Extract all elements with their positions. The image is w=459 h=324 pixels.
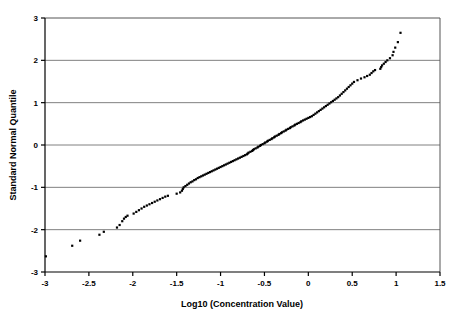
data-point — [366, 75, 368, 77]
data-point — [167, 195, 169, 197]
x-tick-label: -2.5 — [82, 279, 96, 288]
data-point — [138, 209, 140, 211]
data-point — [356, 79, 358, 81]
y-tick-label: 2 — [34, 56, 39, 65]
x-tick-label: -1.5 — [170, 279, 184, 288]
data-point — [146, 204, 148, 206]
y-tick-label: -3 — [31, 268, 39, 277]
data-point — [363, 76, 365, 78]
data-point — [394, 47, 396, 49]
data-point — [119, 224, 121, 226]
data-point — [135, 211, 137, 213]
data-point — [162, 197, 164, 199]
data-point — [176, 193, 178, 195]
y-tick-label: -2 — [31, 226, 39, 235]
data-point — [386, 59, 388, 61]
qq-plot-figure: -3-2.5-2-1.5-1-0.500.511.5 -3-2-10123 Lo… — [0, 0, 459, 324]
y-tick-label: 3 — [34, 14, 39, 23]
data-point — [116, 226, 118, 228]
x-tick-label: 1.5 — [434, 279, 446, 288]
y-tick-label: 0 — [34, 141, 39, 150]
data-point — [156, 199, 158, 201]
x-tick-label: 1 — [394, 279, 399, 288]
y-tick-label: 1 — [34, 99, 39, 108]
data-point — [374, 69, 376, 71]
data-point — [159, 198, 161, 200]
x-tick-label: 0.5 — [347, 279, 359, 288]
data-point — [98, 234, 100, 236]
data-point — [126, 215, 128, 217]
data-point — [143, 206, 145, 208]
x-tick-label: 0 — [306, 279, 311, 288]
y-axis-title: Standard Normal Quantile — [8, 89, 18, 200]
data-point — [399, 32, 401, 34]
data-point — [45, 255, 47, 257]
data-point — [154, 201, 156, 203]
data-point — [151, 202, 153, 204]
data-point — [121, 220, 123, 222]
data-point — [389, 57, 391, 59]
data-point — [353, 81, 355, 83]
x-tick-label: -3 — [41, 279, 49, 288]
x-tick-label: -0.5 — [258, 279, 272, 288]
x-tick-label: -2 — [129, 279, 137, 288]
data-point — [133, 212, 135, 214]
data-point — [164, 196, 166, 198]
data-point — [103, 231, 105, 233]
x-axis-title: Log10 (Concentration Value) — [181, 299, 303, 309]
y-tick-label: -1 — [31, 183, 39, 192]
chart-canvas: -3-2.5-2-1.5-1-0.500.511.5 -3-2-10123 Lo… — [0, 0, 459, 324]
x-tick-label: -1 — [217, 279, 225, 288]
data-point — [140, 207, 142, 209]
data-point — [397, 41, 399, 43]
data-point — [392, 54, 394, 56]
data-point — [79, 240, 81, 242]
data-point — [360, 77, 362, 79]
data-point — [148, 203, 150, 205]
data-point — [392, 51, 394, 53]
data-point — [71, 245, 73, 247]
